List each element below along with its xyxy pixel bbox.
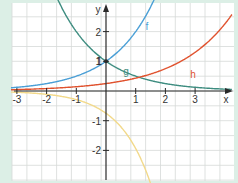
y-tick-label: 2 [95,27,101,38]
plot-area [12,3,234,181]
label-g: g [123,66,129,77]
x-axis-label: x [224,94,229,105]
label-h: h [190,69,196,80]
y-tick-label: -2 [92,145,101,156]
label-f: f [146,21,149,32]
y-tick-label: -1 [92,116,101,127]
intersection-point [104,59,108,63]
x-tick-label: 3 [192,94,198,105]
y-intercept-label: 1 [96,56,102,67]
x-tick-label: -2 [42,94,51,105]
x-tick-label: -3 [12,94,21,105]
function-graph: -3-2-112321-1-21xyfgh [0,0,238,183]
y-axis-label: y [96,4,101,15]
x-tick-label: 2 [163,94,169,105]
x-tick-label: -1 [72,94,81,105]
x-tick-label: 1 [133,94,139,105]
